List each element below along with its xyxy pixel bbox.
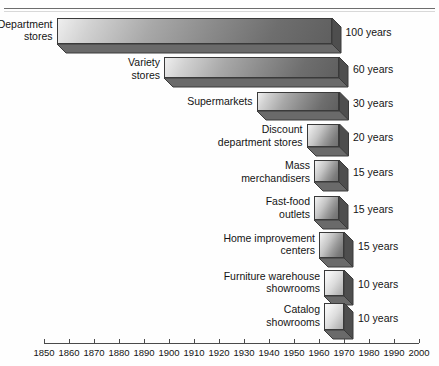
x-axis-tick-label: 1980 bbox=[358, 347, 379, 358]
x-axis-tick-label: 1870 bbox=[83, 347, 104, 358]
x-axis-tick-label: 1910 bbox=[183, 347, 204, 358]
category-label-line-2: stores bbox=[0, 30, 53, 43]
bar-front-face bbox=[314, 196, 339, 220]
bar-3 bbox=[257, 92, 340, 111]
bar-front-face bbox=[319, 232, 344, 258]
x-axis-tick bbox=[194, 339, 195, 343]
x-axis-tick bbox=[394, 339, 395, 343]
x-axis-tick bbox=[119, 339, 120, 343]
category-label-line-1: Department bbox=[0, 18, 53, 31]
bar-category-label: Varietystores bbox=[128, 56, 160, 81]
bar-front-face bbox=[314, 160, 339, 182]
chart-container: Departmentstores100 yearsVarietystores60… bbox=[0, 0, 439, 366]
bar-front-face bbox=[307, 124, 340, 147]
bar-value-label: 100 years bbox=[346, 26, 392, 39]
x-axis-tick bbox=[169, 339, 170, 343]
bar-value-label: 30 years bbox=[353, 97, 393, 110]
x-axis-tick-label: 1900 bbox=[158, 347, 179, 358]
bar-front-face bbox=[164, 57, 339, 78]
x-axis-tick bbox=[344, 339, 345, 343]
bar-8 bbox=[324, 270, 344, 296]
x-axis-tick-label: 2000 bbox=[408, 347, 429, 358]
bar-9 bbox=[324, 303, 344, 330]
bar-category-label: Supermarkets bbox=[187, 95, 252, 108]
category-label-line-2: outlets bbox=[266, 208, 310, 221]
x-axis-line bbox=[44, 343, 419, 344]
bar-value-label: 10 years bbox=[358, 312, 398, 325]
category-label-line-2: centers bbox=[223, 244, 315, 257]
category-label-line-1: Furniture warehouse bbox=[224, 270, 320, 283]
x-axis-tick-label: 1930 bbox=[233, 347, 254, 358]
category-label-line-1: Catalog bbox=[266, 303, 320, 316]
x-axis-tick bbox=[369, 339, 370, 343]
bar-category-label: Catalogshowrooms bbox=[266, 303, 320, 328]
bar-value-label: 15 years bbox=[353, 166, 393, 179]
bar-5 bbox=[314, 160, 339, 182]
bar-1 bbox=[57, 18, 332, 44]
category-label-line-1: Discount bbox=[218, 123, 303, 136]
bar-7 bbox=[319, 232, 344, 258]
category-label-line-2: department stores bbox=[218, 136, 303, 149]
bar-4 bbox=[307, 124, 340, 147]
category-label-line-2: showrooms bbox=[266, 316, 320, 329]
x-axis-tick bbox=[294, 339, 295, 343]
x-axis-tick bbox=[319, 339, 320, 343]
bar-front-face bbox=[324, 303, 344, 330]
x-axis-tick bbox=[244, 339, 245, 343]
x-axis-tick-label: 1950 bbox=[283, 347, 304, 358]
bar-2 bbox=[164, 57, 339, 78]
category-label-line-2: showrooms bbox=[224, 282, 320, 295]
x-axis-tick-label: 1990 bbox=[383, 347, 404, 358]
x-axis-tick bbox=[144, 339, 145, 343]
bar-category-label: Massmerchandisers bbox=[241, 159, 310, 184]
bar-value-label: 60 years bbox=[353, 63, 393, 76]
bar-category-label: Discountdepartment stores bbox=[218, 123, 303, 148]
category-label-line-1: Home improvement bbox=[223, 232, 315, 245]
x-axis-tick bbox=[269, 339, 270, 343]
bar-front-face bbox=[57, 18, 332, 44]
x-axis-tick-label: 1880 bbox=[108, 347, 129, 358]
x-axis-tick-label: 1970 bbox=[333, 347, 354, 358]
bar-value-label: 15 years bbox=[358, 240, 398, 253]
bar-category-label: Furniture warehouseshowrooms bbox=[224, 270, 320, 295]
bar-category-label: Home improvementcenters bbox=[223, 232, 315, 257]
bar-6 bbox=[314, 196, 339, 220]
category-label-line-1: Variety bbox=[128, 56, 160, 69]
plot-area: Departmentstores100 yearsVarietystores60… bbox=[0, 0, 439, 366]
x-axis-tick-label: 1960 bbox=[308, 347, 329, 358]
category-label-line-1: Fast-food bbox=[266, 195, 310, 208]
bar-category-label: Departmentstores bbox=[0, 18, 53, 43]
category-label-line-1: Mass bbox=[241, 159, 310, 172]
category-label-line-2: merchandisers bbox=[241, 172, 310, 185]
x-axis-tick-label: 1920 bbox=[208, 347, 229, 358]
category-label-line-2: stores bbox=[128, 69, 160, 82]
category-label-line-1: Supermarkets bbox=[187, 95, 252, 108]
x-axis-tick bbox=[69, 339, 70, 343]
bar-category-label: Fast-foodoutlets bbox=[266, 195, 310, 220]
bar-front-face bbox=[257, 92, 340, 111]
x-axis-tick-label: 1890 bbox=[133, 347, 154, 358]
bar-value-label: 15 years bbox=[353, 203, 393, 216]
x-axis-tick bbox=[419, 339, 420, 343]
bar-value-label: 20 years bbox=[353, 131, 393, 144]
bar-value-label: 10 years bbox=[358, 278, 398, 291]
x-axis-tick bbox=[219, 339, 220, 343]
x-axis-tick-label: 1940 bbox=[258, 347, 279, 358]
x-axis-tick bbox=[44, 339, 45, 343]
x-axis-tick-label: 1850 bbox=[33, 347, 54, 358]
x-axis-tick-label: 1860 bbox=[58, 347, 79, 358]
bar-front-face bbox=[324, 270, 344, 296]
x-axis-tick bbox=[94, 339, 95, 343]
